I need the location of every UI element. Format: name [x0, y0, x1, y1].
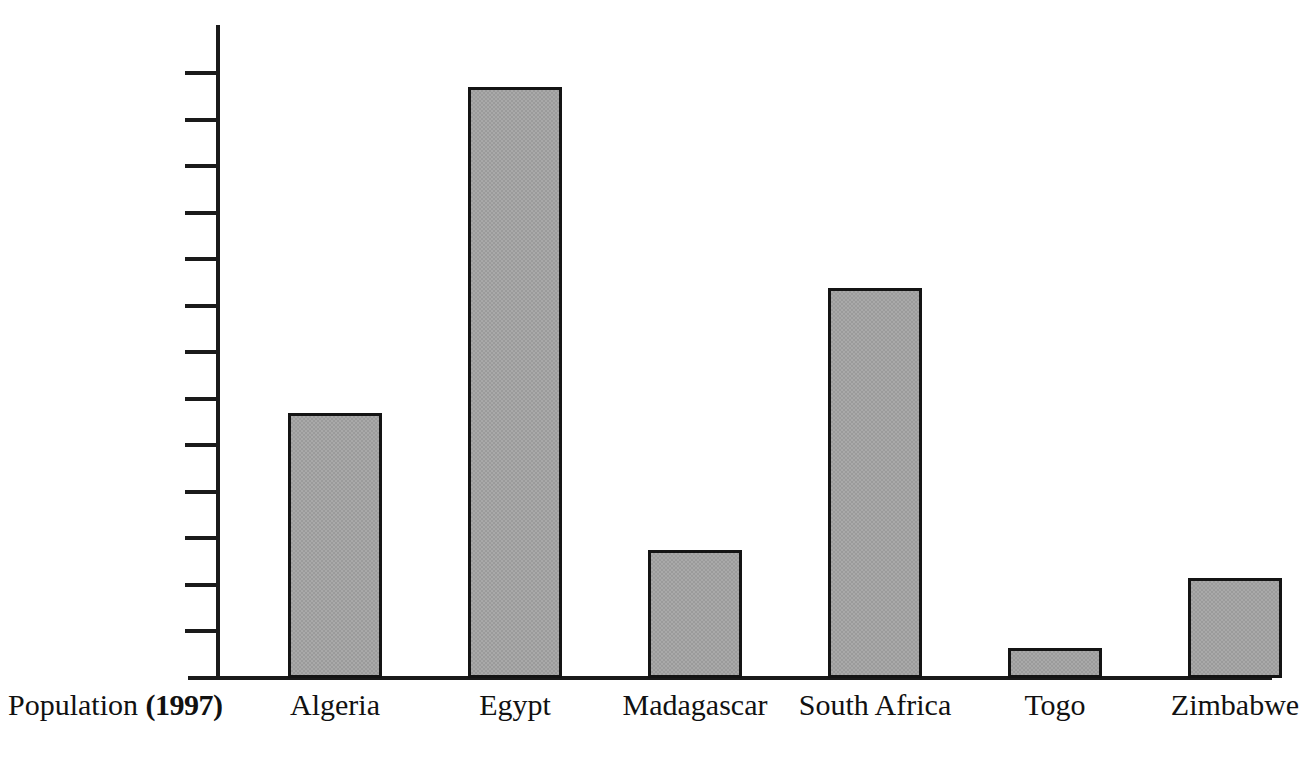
- caption-prefix: Population: [8, 688, 138, 721]
- y-axis-tick-mark: [185, 71, 219, 75]
- y-axis-tick-mark: [185, 583, 219, 587]
- y-axis-tick-mark: [185, 211, 219, 215]
- y-axis-tick-mark: [185, 397, 219, 401]
- y-axis-tick-mark: [185, 443, 219, 447]
- bar: [468, 87, 562, 678]
- y-axis-tick-mark: [185, 629, 219, 633]
- y-axis-tick-mark: [185, 304, 219, 308]
- x-axis-caption: Population (1997): [8, 688, 223, 722]
- bar: [1008, 648, 1102, 678]
- x-axis-category-label: Zimbabwe: [1095, 688, 1303, 722]
- bar: [1188, 578, 1282, 678]
- caption-year: (1997): [146, 688, 223, 721]
- bar: [288, 413, 382, 678]
- y-axis-tick-mark: [185, 490, 219, 494]
- y-axis-tick-mark: [185, 536, 219, 540]
- bar: [648, 550, 742, 678]
- bar: [828, 288, 922, 678]
- y-axis-tick-mark: [185, 350, 219, 354]
- y-axis-tick-mark: [185, 118, 219, 122]
- y-axis-tick-mark: [185, 257, 219, 261]
- y-axis-tick-mark: [185, 164, 219, 168]
